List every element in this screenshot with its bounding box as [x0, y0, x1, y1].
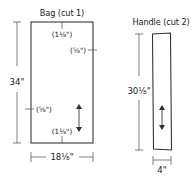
bag-piece-outline — [31, 22, 93, 143]
bag-seam-right-label: (⅝") — [70, 46, 86, 55]
bag-height-label: 34" — [10, 77, 25, 87]
bag-seam-top-label: (1⅛") — [52, 30, 73, 39]
handle-title: Handle (cut 2) — [132, 17, 189, 27]
bag-seam-bottom-label: (1⅛") — [52, 127, 73, 136]
diagram-canvas: Bag (cut 1) Handle (cut 2) (1⅛") (⅝") (⅝… — [0, 0, 195, 177]
handle-height-label: 30⅛" — [127, 86, 150, 96]
bag-width-label: 18⅛" — [50, 152, 73, 162]
handle-piece-outline — [153, 33, 172, 150]
pattern-diagram: Bag (cut 1) Handle (cut 2) (1⅛") (⅝") (⅝… — [0, 0, 195, 177]
bag-title: Bag (cut 1) — [40, 8, 84, 18]
bag-seam-left-label: (⅝") — [36, 105, 52, 114]
handle-width-label: 4" — [157, 165, 166, 175]
